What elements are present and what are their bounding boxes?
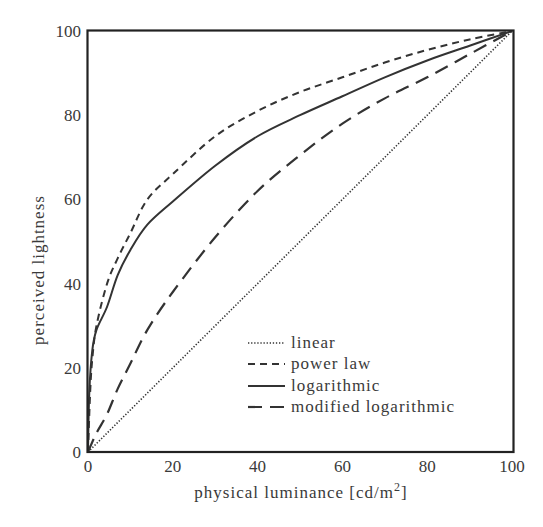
y-axis-label: perceived lightness <box>29 195 48 345</box>
legend: linearpower lawlogarithmicmodified logar… <box>248 333 455 416</box>
x-axis-label: physical luminance [cd/m2] <box>194 480 407 502</box>
y-tick-label: 0 <box>73 443 82 462</box>
legend-item: modified logarithmic <box>248 397 455 416</box>
chart: 020406080100 020406080100 physical lumin… <box>0 0 543 527</box>
x-axis-ticks: 020406080100 <box>84 457 525 476</box>
legend-item: logarithmic <box>248 376 380 395</box>
y-axis-ticks: 020406080100 <box>56 22 82 462</box>
y-tick-label: 100 <box>56 22 82 41</box>
legend-item: linear <box>248 333 336 352</box>
x-tick-label: 20 <box>164 457 181 476</box>
y-tick-label: 80 <box>64 106 81 125</box>
y-tick-label: 20 <box>64 359 81 378</box>
legend-label: power law <box>291 354 371 373</box>
legend-label: modified logarithmic <box>291 397 455 416</box>
x-tick-label: 100 <box>499 457 525 476</box>
legend-item: power law <box>248 354 371 373</box>
x-tick-label: 40 <box>249 457 266 476</box>
x-tick-label: 0 <box>84 457 93 476</box>
x-axis-label-superscript: 2 <box>394 480 401 494</box>
y-tick-label: 60 <box>64 190 81 209</box>
y-tick-label: 40 <box>64 275 81 294</box>
x-tick-label: 80 <box>419 457 436 476</box>
legend-label: linear <box>291 333 336 352</box>
x-tick-label: 60 <box>334 457 351 476</box>
legend-label: logarithmic <box>291 376 380 395</box>
